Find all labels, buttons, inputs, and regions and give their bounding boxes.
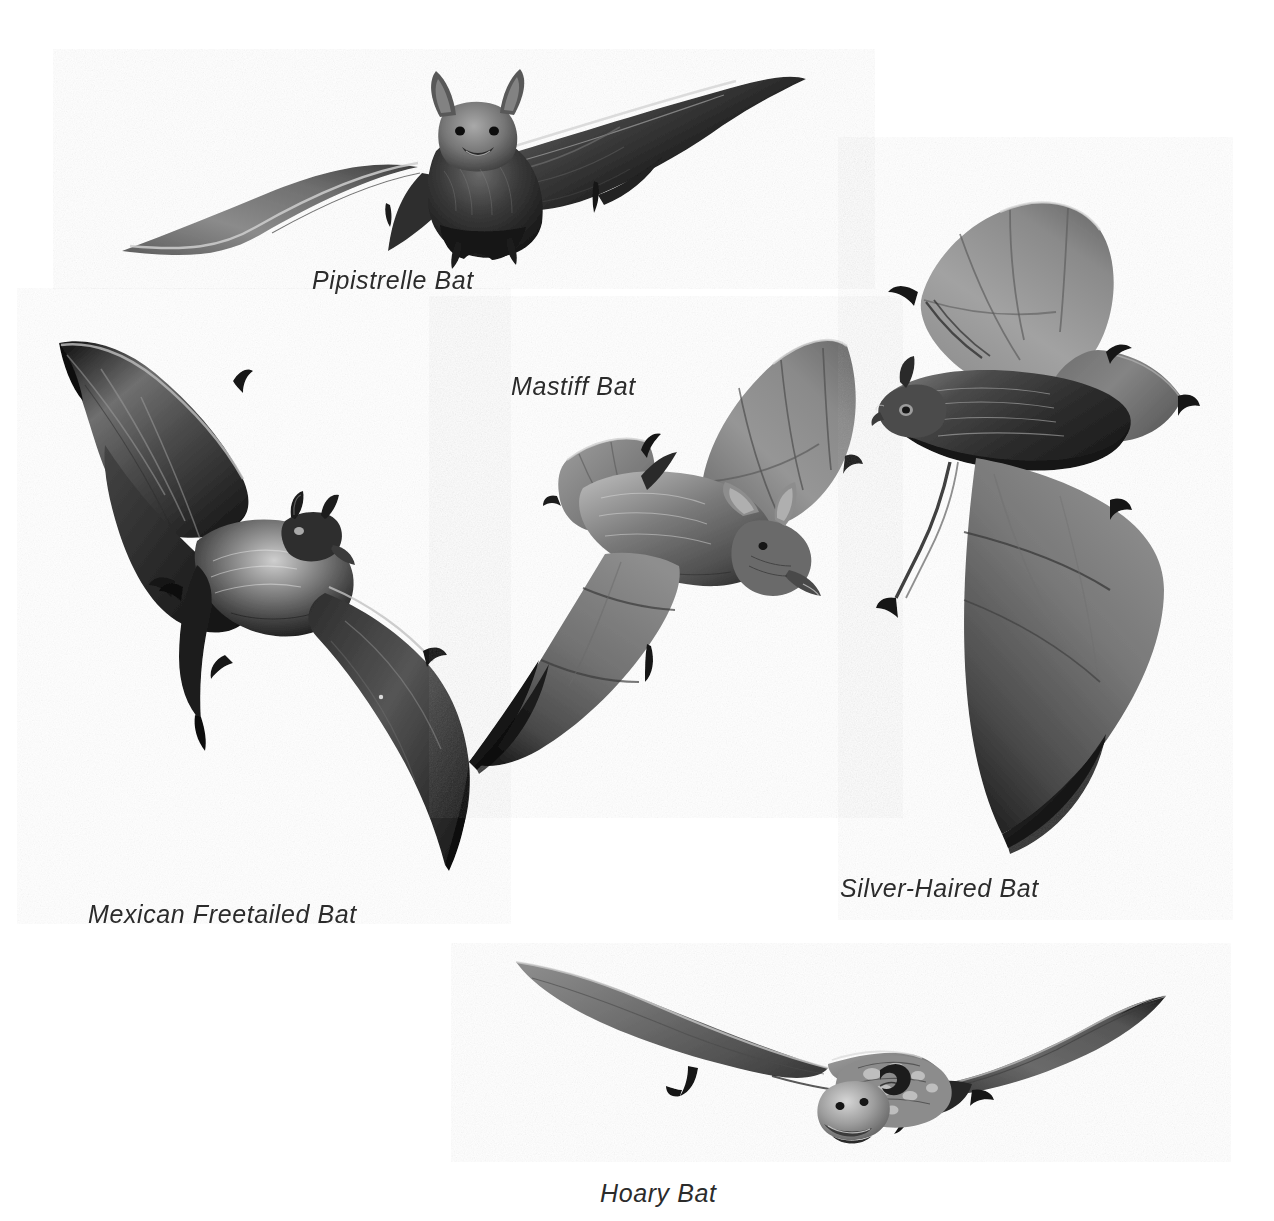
label-mexican-freetailed-bat: Mexican Freetailed Bat (88, 900, 357, 929)
pipistrelle-artwork (122, 69, 806, 269)
mexican-freetailed-artwork (59, 341, 470, 871)
silver-haired-artwork (871, 202, 1200, 854)
figure-pipistrelle-bat (100, 55, 810, 260)
figure-mexican-freetailed-bat (45, 325, 475, 900)
figure-hoary-bat (480, 950, 1170, 1150)
label-hoary-bat: Hoary Bat (600, 1179, 717, 1208)
label-silver-haired-bat: Silver-Haired Bat (840, 874, 1039, 903)
label-pipistrelle-bat: Pipistrelle Bat (312, 266, 474, 295)
label-mastiff-bat: Mastiff Bat (511, 372, 636, 401)
hoary-artwork (516, 962, 1166, 1144)
illustration-plate: Pipistrelle Bat (0, 0, 1274, 1221)
figure-silver-haired-bat (860, 200, 1200, 860)
mastiff-artwork (469, 340, 863, 774)
